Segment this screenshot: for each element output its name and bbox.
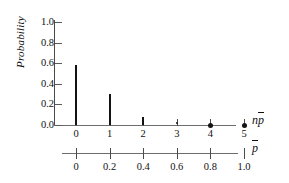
y-axis-line <box>54 20 55 126</box>
x-tick-label: 4 <box>198 128 222 139</box>
y-tick-label: 0.4 <box>20 79 54 89</box>
data-point-marker <box>242 123 247 128</box>
y-tick-label: 0.6 <box>20 58 54 68</box>
x-tick-mark-secondary <box>76 148 77 159</box>
x-tick-label-secondary: 0 <box>61 161 91 172</box>
y-tick-label: 1.0 <box>20 17 54 27</box>
y-tick-mark <box>55 22 62 23</box>
x-tick-label: 5 <box>232 128 256 139</box>
data-bar <box>142 117 144 125</box>
x-tick-mark-secondary <box>143 148 144 159</box>
y-tick-mark <box>55 63 62 64</box>
data-bar <box>75 65 77 125</box>
x-tick-label: 1 <box>98 128 122 139</box>
x-tick-label-secondary: 0.4 <box>128 161 158 172</box>
y-tick-mark <box>55 43 62 44</box>
x-axis-title-primary: np <box>252 113 264 128</box>
x-axis-line-secondary <box>62 153 238 154</box>
x-axis-title-secondary: p <box>252 141 258 156</box>
data-point-marker-small <box>176 122 178 124</box>
y-tick-label: 0.8 <box>20 38 54 48</box>
data-bar <box>109 94 111 125</box>
x-tick-label: 0 <box>64 128 88 139</box>
data-point-marker <box>208 123 213 128</box>
x-tick-label-secondary: 0.2 <box>95 161 125 172</box>
x-tick-label: 2 <box>131 128 155 139</box>
x-tick-mark-secondary <box>210 148 211 159</box>
y-tick-label: 0.2 <box>20 99 54 109</box>
y-tick-label: 0.0 <box>20 120 54 130</box>
x-tick-label-secondary: 0.8 <box>195 161 225 172</box>
x-tick-label-secondary: 1.0 <box>229 161 259 172</box>
x-tick-mark-secondary <box>110 148 111 159</box>
y-tick-mark <box>55 125 62 126</box>
x-tick-label: 3 <box>165 128 189 139</box>
y-tick-mark <box>55 104 62 105</box>
probability-chart: Probability 1.00.80.60.40.20.0 012345 00… <box>0 0 289 183</box>
x-tick-mark-secondary <box>177 148 178 159</box>
x-tick-mark-secondary <box>244 148 245 159</box>
x-tick-label-secondary: 0.6 <box>162 161 192 172</box>
y-tick-mark <box>55 84 62 85</box>
